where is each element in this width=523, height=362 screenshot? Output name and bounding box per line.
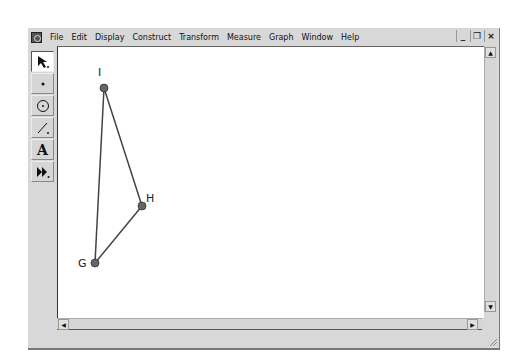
label-i[interactable]: I xyxy=(98,66,101,79)
label-g[interactable]: G xyxy=(78,257,87,270)
segment-gi[interactable] xyxy=(95,88,104,263)
geometry-layer xyxy=(0,0,523,362)
segment-ih[interactable] xyxy=(104,88,142,206)
point-g[interactable] xyxy=(91,259,99,267)
segment-hg[interactable] xyxy=(95,206,142,263)
point-i[interactable] xyxy=(100,84,108,92)
point-h[interactable] xyxy=(138,202,146,210)
label-h[interactable]: H xyxy=(146,192,154,205)
